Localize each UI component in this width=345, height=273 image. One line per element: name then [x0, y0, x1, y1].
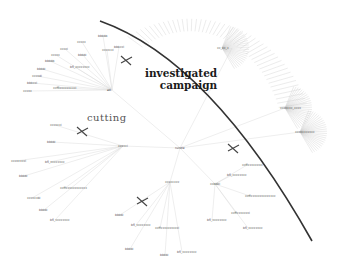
- leaf-node: xxffxxxxxxxxxxxx: [60, 187, 87, 190]
- cluster-node: xxxxxxxxxxx: [295, 131, 315, 134]
- investigated-text: investigated: [145, 67, 217, 79]
- leaf-node: bbbbb: [45, 60, 55, 63]
- leaf-node: bbbbl: [115, 214, 123, 217]
- investigated-campaign-label: investigated campaign: [145, 67, 217, 91]
- leaf-node: xxxxxxl: [50, 124, 62, 127]
- cutting-label: cutting: [87, 112, 127, 123]
- leaf-node: bbbbl: [78, 54, 86, 57]
- leaf-node: xxxxx: [77, 41, 86, 44]
- radial-tree-diagram: [0, 0, 345, 273]
- leaf-node: xxffxxxxxxxxxxl: [155, 227, 179, 230]
- leaf-node: xxfflxxxxxxxxxl: [53, 87, 76, 90]
- leaf-node: bbbbl: [39, 209, 47, 212]
- leaf-node: xxffxxxxxxxxxxxxxx: [245, 195, 275, 198]
- leaf-node: bfl_xxxxxxxx: [177, 251, 197, 254]
- leaf-node: bbbbl: [47, 141, 55, 144]
- leaf-node: xxxxx: [23, 90, 32, 93]
- leaf-node: bfl_xxxxxxxx: [131, 224, 151, 227]
- leaf-node: bbbbl: [19, 175, 27, 178]
- hub-node: xxxxxl: [118, 145, 128, 148]
- cluster-node: xx_xx_x: [217, 47, 229, 50]
- leaf-node: bfl_xxxxxxxx: [243, 227, 263, 230]
- investigated-campaign-divider: [100, 21, 312, 241]
- leaf-node: xxxxxxl: [102, 49, 114, 52]
- leaf-node: xxffxxxxxxxxl: [242, 164, 263, 167]
- leaf-node: xxxxl: [60, 48, 68, 51]
- leaf-node: bbbbb: [98, 35, 108, 38]
- leaf-node: bfl_xxxxxxxx: [70, 66, 90, 69]
- leaf-node: bbbbl: [160, 254, 168, 257]
- leaf-node: bbbbl: [125, 248, 133, 251]
- hub-node: xxxxxxxx: [165, 181, 179, 184]
- campaign-text: campaign: [145, 79, 217, 91]
- leaf-node: xxffxxxxxxxl: [231, 212, 250, 215]
- hub-node: xxbbbl: [210, 183, 220, 186]
- root-node: rundle: [175, 147, 185, 150]
- leaf-node: xxxxdl: [32, 75, 42, 78]
- leaf-node: xxxxxxxxl: [11, 160, 26, 163]
- leaf-node: bbbbl: [37, 68, 45, 71]
- leaf-node: bfl_xxxxxxxx: [227, 174, 247, 177]
- leaf-node: bbbxxl: [27, 82, 37, 85]
- leaf-node: xxxxx: [51, 54, 60, 57]
- leaf-node: bfl_xxxxxxxx: [50, 219, 70, 222]
- leaf-node: bfl_xxxxxxxx: [45, 161, 65, 164]
- leaf-node: bbbxxl: [114, 46, 124, 49]
- leaf-node: xxxxxxbl: [27, 197, 40, 200]
- hub-node: ad: [107, 89, 111, 92]
- cluster-node: xxxxxxx_xxxx: [280, 107, 301, 110]
- leaf-node: bfl_xxxxxxxx: [207, 219, 227, 222]
